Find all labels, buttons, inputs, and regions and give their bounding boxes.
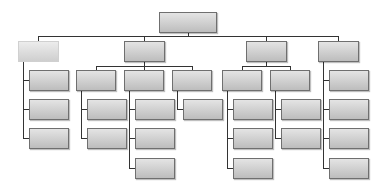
node-c-2 <box>270 70 310 91</box>
node-d-4 <box>329 158 369 179</box>
node-b <box>124 41 165 62</box>
connector <box>129 91 130 169</box>
connector <box>323 62 324 169</box>
node-d-2 <box>329 99 369 120</box>
node-c <box>246 41 287 62</box>
node-a <box>18 41 59 62</box>
node-b-1 <box>76 70 116 91</box>
node-c-1-2 <box>233 128 273 149</box>
node-b-1-1 <box>87 99 127 120</box>
node-c-2-2 <box>281 128 321 149</box>
node-a-1 <box>29 70 69 91</box>
connector <box>242 66 291 67</box>
connector <box>38 36 339 37</box>
node-b-3-1 <box>183 99 223 120</box>
connector <box>227 91 228 169</box>
connector <box>177 91 178 110</box>
node-b-1-2 <box>87 128 127 149</box>
connector <box>81 91 82 139</box>
connector <box>23 62 24 139</box>
node-b-2 <box>124 70 164 91</box>
node-a-2 <box>29 99 69 120</box>
connector <box>275 91 276 139</box>
root-node <box>159 12 217 33</box>
node-a-3 <box>29 128 69 149</box>
node-c-1-1 <box>233 99 273 120</box>
node-d-1 <box>329 70 369 91</box>
node-c-2-1 <box>281 99 321 120</box>
node-b-3 <box>172 70 212 91</box>
node-b-2-1 <box>135 99 175 120</box>
node-d <box>318 41 359 62</box>
node-d-3 <box>329 128 369 149</box>
node-c-1-3 <box>233 158 273 179</box>
node-b-2-2 <box>135 128 175 149</box>
node-c-1 <box>222 70 262 91</box>
node-b-2-3 <box>135 158 175 179</box>
